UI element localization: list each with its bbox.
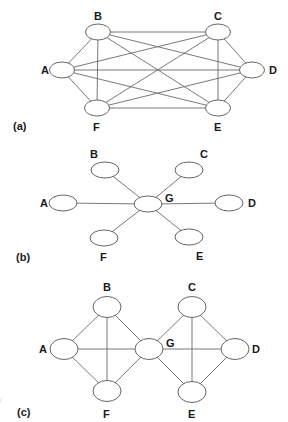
node-label-g: G [166,337,175,349]
panel-b-star: ABCDEFG(b) [16,148,256,263]
node-label-f: F [100,251,107,263]
node-c [178,297,206,318]
node-label-d: D [248,197,256,209]
node-d [221,339,249,360]
node-a [50,339,78,360]
node-label-d: D [269,64,277,76]
panel-label-a: (a) [13,120,27,132]
node-g [134,196,162,212]
node-c [175,162,203,178]
panel-a-full-mesh: ABCDEF(a) [13,10,277,133]
node-label-a: A [39,343,47,355]
node-e [206,100,231,116]
panel-label-b: (b) [16,251,30,263]
node-label-c: C [188,281,196,293]
node-label-a: A [41,64,49,76]
node-label-b: B [94,10,102,22]
edge-b-f [97,32,98,108]
node-label-c: C [214,10,222,22]
node-e [175,229,203,245]
node-f [93,381,121,402]
node-b [86,24,111,40]
node-b [91,162,119,178]
node-a [49,195,77,211]
node-f [90,230,118,246]
edge-d-f [97,70,252,108]
node-label-d: D [252,343,260,355]
node-g [135,339,163,360]
node-label-c: C [200,148,208,160]
node-c [206,24,231,40]
network-topology-figure: ABCDEF(a) ABCDEFG(b) ABCDEFG(c) / [0,0,288,422]
node-label-g: G [165,192,174,204]
edge-a-c [62,32,218,70]
panel-label-c: (c) [17,406,31,418]
node-label-f: F [103,408,110,420]
node-label-e: E [196,250,203,262]
edge-a-e [62,70,218,108]
node-b [93,297,121,318]
node-label-b: B [90,148,98,160]
edge-b-d [98,32,252,70]
node-f [85,100,110,116]
node-label-f: F [93,121,100,133]
node-d [240,62,265,78]
node-label-e: E [214,121,221,133]
node-a [50,62,75,78]
panel-c-two-clusters: ABCDEFG(c) [17,281,260,420]
scan-artifact-mark: / [0,397,2,403]
node-e [178,382,206,403]
node-d [215,195,243,211]
node-label-b: B [103,281,111,293]
node-label-e: E [188,408,195,420]
node-label-a: A [40,197,48,209]
